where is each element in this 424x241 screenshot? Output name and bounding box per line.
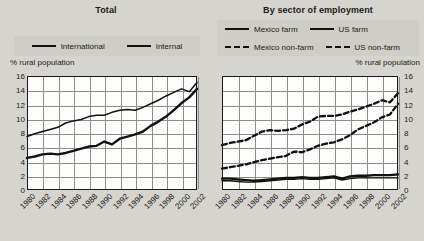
y-tick-label: 10 xyxy=(16,114,25,123)
legend-label: Mexico non-farm xyxy=(254,43,314,52)
y-tick-label: 12 xyxy=(16,100,25,109)
x-tick-label: 1986 xyxy=(261,192,280,211)
chart-panel-total: Total International Internal % rural pop… xyxy=(0,0,212,241)
x-tick-label: 1992 xyxy=(111,192,130,211)
legend-label: Mexico farm xyxy=(254,25,298,34)
y-axis-tick-labels: 0246810121416 xyxy=(3,76,25,190)
x-tick-label: 1980 xyxy=(18,192,37,211)
x-tick-label: 1996 xyxy=(341,192,360,211)
y-tick-label: 4 xyxy=(21,157,25,166)
x-tick-label: 2000 xyxy=(373,192,392,211)
y-tick-label: 16 xyxy=(404,72,413,81)
legend-item-international[interactable]: International xyxy=(32,42,105,51)
legend-item-internal[interactable]: Internal xyxy=(127,42,183,51)
series-line-us-non-farm xyxy=(222,104,398,169)
plot-area-total xyxy=(27,76,197,190)
x-tick-label: 1990 xyxy=(96,192,115,211)
y-tick-label: 10 xyxy=(404,114,413,123)
x-tick-label: 1982 xyxy=(229,192,248,211)
panel-title-by-sector: By sector of employment xyxy=(212,5,424,15)
y-tick-label: 4 xyxy=(404,157,408,166)
x-tick-label: 1984 xyxy=(49,192,68,211)
y-tick-label: 8 xyxy=(21,129,25,138)
series-line-international xyxy=(27,82,197,136)
y-tick-label: 2 xyxy=(21,171,25,180)
legend-total: International Internal xyxy=(14,36,200,56)
y-axis-title: % rural population xyxy=(10,58,74,67)
y-axis-title: % rural population xyxy=(356,58,420,67)
y-tick-label: 16 xyxy=(16,72,25,81)
legend-by-sector: Mexico farm US farm Mexico non-farm US n… xyxy=(217,20,419,56)
x-tick-label: 1990 xyxy=(293,192,312,211)
y-tick-label: 12 xyxy=(404,100,413,109)
chart-panel-by-sector: By sector of employment Mexico farm US f… xyxy=(212,0,424,241)
series-canvas xyxy=(222,76,398,190)
x-tick-label: 2000 xyxy=(173,192,192,211)
x-axis-tick-labels: 1980198219841986198819901992199419961998… xyxy=(212,192,424,240)
x-tick-label: 1994 xyxy=(325,192,344,211)
gridline-vertical xyxy=(198,77,199,189)
dashed-line-swatch-icon xyxy=(225,43,249,51)
x-tick-label: 1984 xyxy=(245,192,264,211)
x-axis-tick-labels: 1980198219841986198819901992199419961998… xyxy=(0,192,212,240)
dashed-line-swatch-icon xyxy=(326,43,350,51)
x-tick-label: 1992 xyxy=(309,192,328,211)
legend-item-mexico-non-farm[interactable]: Mexico non-farm xyxy=(225,43,314,52)
gridline-vertical xyxy=(399,77,400,189)
x-tick-label: 1980 xyxy=(213,192,232,211)
x-tick-label: 1988 xyxy=(277,192,296,211)
plot-area-by-sector xyxy=(222,76,398,190)
y-tick-label: 8 xyxy=(404,129,408,138)
x-tick-label: 1998 xyxy=(357,192,376,211)
legend-item-us-farm[interactable]: US farm xyxy=(310,25,368,34)
legend-item-us-non-farm[interactable]: US non-farm xyxy=(326,43,400,52)
x-tick-label: 1988 xyxy=(80,192,99,211)
x-tick-label: 1986 xyxy=(65,192,84,211)
legend-label: Internal xyxy=(156,42,183,51)
x-tick-label: 1982 xyxy=(34,192,53,211)
legend-label: US farm xyxy=(339,25,368,34)
series-line-internal xyxy=(27,89,197,158)
legend-label: US non-farm xyxy=(355,43,400,52)
x-tick-label: 2002 xyxy=(389,192,408,211)
line-swatch-icon xyxy=(127,42,151,50)
line-swatch-icon xyxy=(310,25,334,33)
y-tick-label: 6 xyxy=(21,143,25,152)
series-canvas xyxy=(27,76,197,190)
x-tick-label: 1996 xyxy=(142,192,161,211)
panel-title-total: Total xyxy=(0,5,212,15)
y-tick-label: 14 xyxy=(404,86,413,95)
y-tick-label: 14 xyxy=(16,86,25,95)
line-swatch-icon xyxy=(225,25,249,33)
series-line-mexico-non-farm xyxy=(222,93,398,145)
x-tick-label: 1998 xyxy=(157,192,176,211)
y-axis-tick-labels: 0246810121416 xyxy=(402,76,424,190)
x-tick-label: 1994 xyxy=(127,192,146,211)
line-swatch-icon xyxy=(32,42,56,50)
x-tick-label: 2002 xyxy=(188,192,207,211)
legend-item-mexico-farm[interactable]: Mexico farm xyxy=(225,25,298,34)
y-tick-label: 6 xyxy=(404,143,408,152)
legend-label: International xyxy=(61,42,105,51)
y-tick-label: 2 xyxy=(404,171,408,180)
